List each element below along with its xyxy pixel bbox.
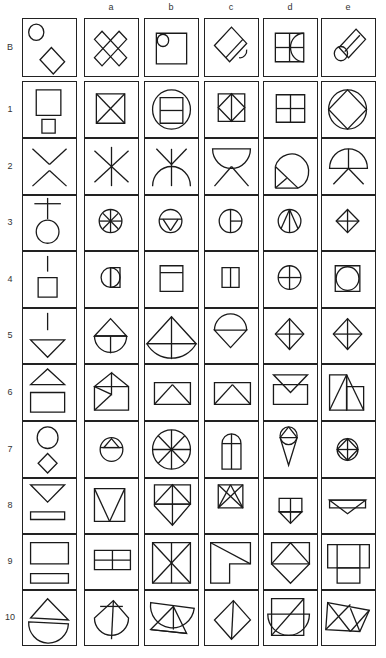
option-cell-10-d[interactable] bbox=[263, 590, 318, 646]
figure-drawing bbox=[205, 535, 258, 589]
option-cell-7-e[interactable] bbox=[321, 421, 376, 478]
option-cell-B-b[interactable] bbox=[144, 18, 199, 77]
option-cell-8-e[interactable] bbox=[321, 478, 376, 534]
option-cell-4-e[interactable] bbox=[321, 251, 376, 308]
option-cell-B-d[interactable] bbox=[263, 18, 318, 77]
figure-drawing bbox=[322, 252, 375, 307]
option-cell-10-c[interactable] bbox=[204, 590, 259, 646]
figure-drawing bbox=[322, 309, 375, 363]
option-cell-6-b[interactable] bbox=[144, 364, 199, 421]
row-label-4: 4 bbox=[2, 274, 18, 284]
row-label-10: 10 bbox=[2, 612, 18, 622]
option-cell-2-e[interactable] bbox=[321, 138, 376, 195]
option-cell-10-b[interactable] bbox=[144, 590, 199, 646]
row-label-3: 3 bbox=[2, 217, 18, 227]
row-label-8: 8 bbox=[2, 500, 18, 510]
option-cell-4-a[interactable] bbox=[84, 251, 139, 308]
figure-drawing bbox=[85, 309, 138, 363]
figure-drawing bbox=[264, 196, 317, 250]
option-cell-3-c[interactable] bbox=[204, 195, 259, 251]
option-cell-9-a[interactable] bbox=[84, 534, 139, 590]
option-cell-5-a[interactable] bbox=[84, 308, 139, 364]
column-label-a: a bbox=[84, 2, 138, 12]
figure-drawing bbox=[322, 196, 375, 250]
option-cell-4-b[interactable] bbox=[144, 251, 199, 308]
option-cell-6-d[interactable] bbox=[263, 364, 318, 421]
option-cell-9-d[interactable] bbox=[263, 534, 318, 590]
figure-drawing bbox=[85, 19, 138, 76]
option-cell-5-c[interactable] bbox=[204, 308, 259, 364]
figure-drawing bbox=[145, 139, 198, 194]
option-cell-8-c[interactable] bbox=[204, 478, 259, 534]
row-label-7: 7 bbox=[2, 444, 18, 454]
figure-drawing bbox=[85, 479, 138, 533]
option-cell-9-e[interactable] bbox=[321, 534, 376, 590]
option-cell-3-b[interactable] bbox=[144, 195, 199, 251]
option-cell-3-e[interactable] bbox=[321, 195, 376, 251]
stimulus-cell-8 bbox=[22, 478, 77, 534]
option-cell-6-c[interactable] bbox=[204, 364, 259, 421]
option-cell-9-b[interactable] bbox=[144, 534, 199, 590]
option-cell-8-b[interactable] bbox=[144, 478, 199, 534]
option-cell-10-a[interactable] bbox=[84, 590, 139, 646]
option-cell-6-a[interactable] bbox=[84, 364, 139, 421]
option-cell-B-a[interactable] bbox=[84, 18, 139, 77]
stimulus-cell-6 bbox=[22, 364, 77, 421]
option-cell-6-e[interactable] bbox=[321, 364, 376, 421]
option-cell-B-c[interactable] bbox=[204, 18, 259, 77]
figure-drawing bbox=[205, 252, 258, 307]
option-cell-2-d[interactable] bbox=[263, 138, 318, 195]
option-cell-1-d[interactable] bbox=[263, 81, 318, 138]
option-cell-1-a[interactable] bbox=[84, 81, 139, 138]
figure-drawing bbox=[205, 82, 258, 137]
stimulus-cell-9 bbox=[22, 534, 77, 590]
figure-drawing bbox=[264, 365, 317, 420]
figure-drawing bbox=[85, 422, 138, 477]
figure-drawing bbox=[205, 479, 258, 533]
option-cell-7-d[interactable] bbox=[263, 421, 318, 478]
option-cell-8-a[interactable] bbox=[84, 478, 139, 534]
option-cell-2-c[interactable] bbox=[204, 138, 259, 195]
option-cell-9-c[interactable] bbox=[204, 534, 259, 590]
row-label-B: B bbox=[2, 42, 18, 52]
figure-drawing bbox=[205, 591, 258, 645]
option-cell-1-e[interactable] bbox=[321, 81, 376, 138]
figure-drawing bbox=[85, 365, 138, 420]
option-cell-1-c[interactable] bbox=[204, 81, 259, 138]
stimulus-cell-1 bbox=[22, 81, 77, 138]
figure-drawing bbox=[205, 309, 258, 363]
option-cell-7-b[interactable] bbox=[144, 421, 199, 478]
option-cell-8-d[interactable] bbox=[263, 478, 318, 534]
figure-drawing bbox=[85, 591, 138, 645]
option-cell-10-e[interactable] bbox=[321, 590, 376, 646]
figure-drawing bbox=[322, 365, 375, 420]
figure-drawing bbox=[264, 82, 317, 137]
column-label-b: b bbox=[144, 2, 198, 12]
option-cell-5-b[interactable] bbox=[144, 308, 199, 364]
option-cell-2-a[interactable] bbox=[84, 138, 139, 195]
figure-drawing bbox=[85, 196, 138, 250]
figure-drawing bbox=[23, 535, 76, 589]
stimulus-cell-2 bbox=[22, 138, 77, 195]
option-cell-5-e[interactable] bbox=[321, 308, 376, 364]
option-cell-4-d[interactable] bbox=[263, 251, 318, 308]
figure-drawing bbox=[85, 535, 138, 589]
figure-drawing bbox=[23, 365, 76, 420]
figure-drawing bbox=[23, 196, 76, 250]
figure-drawing bbox=[264, 252, 317, 307]
figure-drawing bbox=[85, 252, 138, 307]
option-cell-7-c[interactable] bbox=[204, 421, 259, 478]
option-cell-3-d[interactable] bbox=[263, 195, 318, 251]
option-cell-B-e[interactable] bbox=[321, 18, 376, 77]
option-cell-7-a[interactable] bbox=[84, 421, 139, 478]
row-label-5: 5 bbox=[2, 330, 18, 340]
figure-drawing bbox=[264, 19, 317, 76]
stimulus-cell-10 bbox=[22, 590, 77, 646]
column-label-e: e bbox=[321, 2, 375, 12]
option-cell-2-b[interactable] bbox=[144, 138, 199, 195]
figure-drawing bbox=[322, 82, 375, 137]
option-cell-4-c[interactable] bbox=[204, 251, 259, 308]
option-cell-5-d[interactable] bbox=[263, 308, 318, 364]
option-cell-3-a[interactable] bbox=[84, 195, 139, 251]
option-cell-1-b[interactable] bbox=[144, 81, 199, 138]
